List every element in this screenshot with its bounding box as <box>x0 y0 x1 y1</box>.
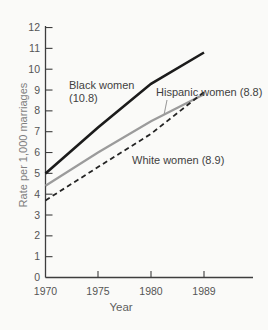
y-tick-label: 8 <box>14 104 40 117</box>
y-tick-label: 7 <box>14 125 40 138</box>
x-tick-label: 1980 <box>133 285 169 298</box>
figure-divorce-rate-chart: Rate per 1,000 marriages Year Black wome… <box>0 0 268 330</box>
series-line-white-women <box>46 92 205 200</box>
y-tick-label: 9 <box>14 84 40 97</box>
y-tick-label: 0 <box>14 271 40 284</box>
y-tick-label: 10 <box>14 63 40 76</box>
y-tick-label: 5 <box>14 167 40 180</box>
series-label-white-women: White women (8.9) <box>132 154 224 167</box>
series-label-black-women-value: (10.8) <box>69 92 134 105</box>
y-tick-label: 1 <box>14 250 40 263</box>
series-label-hispanic-women: Hispanic women (8.8) <box>156 86 262 99</box>
series-line-hispanic-women <box>46 94 205 186</box>
y-tick-label: 2 <box>14 229 40 242</box>
y-tick-label: 4 <box>14 188 40 201</box>
x-tick-label: 1989 <box>186 285 222 298</box>
series-label-black-women-line1: Black women <box>69 79 134 92</box>
y-tick-label: 11 <box>14 42 40 55</box>
y-tick-label: 6 <box>14 146 40 159</box>
x-tick-label: 1970 <box>28 285 64 298</box>
y-tick-label: 3 <box>14 209 40 222</box>
y-tick-label: 12 <box>14 21 40 34</box>
x-tick-label: 1975 <box>80 285 116 298</box>
series-label-black-women: Black women (10.8) <box>69 79 134 105</box>
x-axis-title: Year <box>95 301 147 313</box>
